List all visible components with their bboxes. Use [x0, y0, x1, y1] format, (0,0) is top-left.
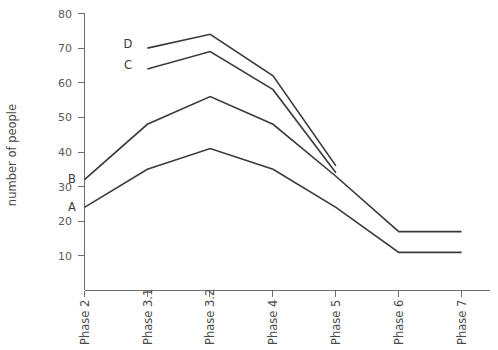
x-label-phase-2: Phase 2: [78, 300, 92, 345]
x-label-phase-3-2: Phase 3.2: [203, 289, 217, 345]
y-axis-ticks: 80 70 60 50 40 30 20 10: [58, 8, 85, 263]
series-label-a: A: [68, 200, 76, 214]
y-axis-title: number of people: [5, 104, 19, 206]
y-tick-label-50: 50: [58, 111, 72, 124]
x-label-phase-7: Phase 7: [455, 300, 469, 345]
y-tick-label-10: 10: [58, 250, 72, 263]
series-label-c: C: [124, 58, 132, 72]
y-tick-label-60: 60: [58, 77, 72, 90]
y-tick-label-40: 40: [58, 146, 72, 159]
series-label-d: D: [124, 37, 133, 51]
series-layer: [85, 34, 462, 252]
x-label-phase-3-1: Phase 3.1: [141, 289, 155, 345]
y-tick-label-70: 70: [58, 42, 72, 55]
y-axis-title-text: number of people: [5, 104, 19, 206]
y-tick-label-80: 80: [58, 8, 72, 21]
series-label-b: B: [68, 172, 76, 186]
y-tick-label-20: 20: [58, 215, 72, 228]
x-axis-labels: Phase 2 Phase 3.1 Phase 3.2 Phase 4 Phas…: [78, 289, 469, 345]
series-line-d: [147, 34, 336, 166]
x-label-phase-4: Phase 4: [266, 300, 280, 345]
series-line-a: [85, 149, 462, 253]
series-labels: A B C D: [68, 37, 133, 214]
x-label-phase-6: Phase 6: [392, 300, 406, 345]
line-chart: number of people 80 70 60 50 40 30 20 10: [0, 0, 498, 350]
x-label-phase-5: Phase 5: [329, 300, 343, 345]
chart-canvas: number of people 80 70 60 50 40 30 20 10: [0, 0, 498, 350]
series-line-b: [85, 97, 462, 232]
